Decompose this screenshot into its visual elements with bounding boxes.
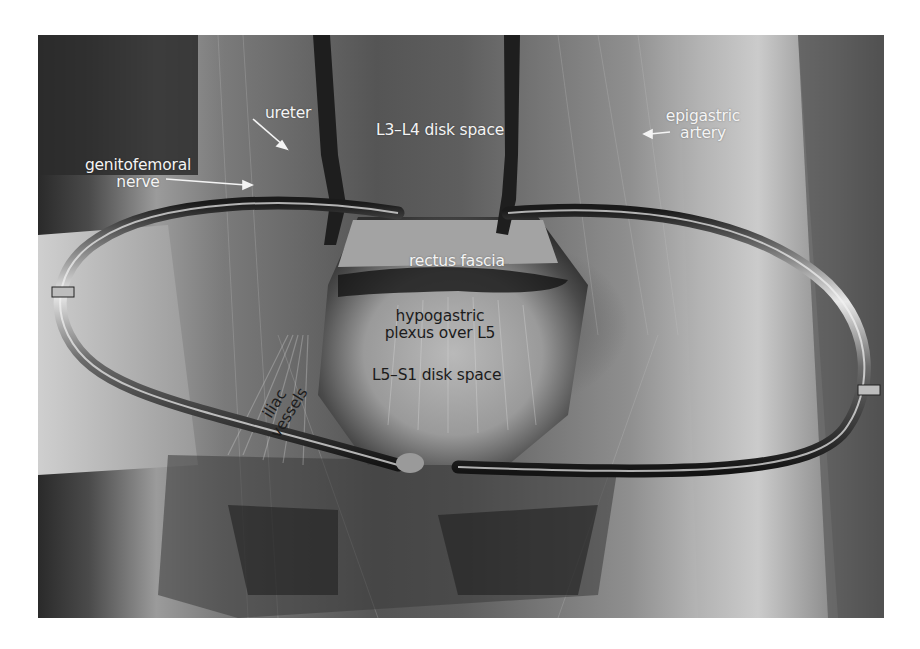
label-ureter: ureter — [265, 105, 311, 122]
left-surgical-towel — [38, 225, 198, 475]
left-frame-joint — [52, 287, 74, 297]
label-epigastric-line1: epigastric — [658, 108, 748, 125]
ureter-arrowhead — [277, 141, 287, 149]
label-genitofemoral-line1: genitofemoral — [78, 157, 198, 174]
label-hypogastric-line1: hypogastric — [378, 308, 502, 325]
label-l5-s1-disk-space: L5–S1 disk space — [372, 367, 501, 384]
bottom-blade-tip — [396, 453, 424, 473]
left-retractor-blade — [313, 35, 346, 245]
epigastric-arrowhead — [644, 130, 652, 138]
label-epigastric-line2: artery — [658, 125, 748, 142]
label-hypogastric-line2: plexus over L5 — [378, 325, 502, 342]
dark-corner-shade — [38, 35, 198, 175]
label-genitofemoral-line2: nerve — [78, 174, 198, 191]
label-rectus-fascia: rectus fascia — [409, 253, 505, 270]
label-epigastric-artery: epigastric artery — [658, 108, 748, 142]
lower-dark-fold-right — [438, 505, 598, 595]
label-l3-l4-disk-space: L3–L4 disk space — [376, 122, 504, 139]
label-hypogastric-plexus: hypogastric plexus over L5 — [378, 308, 502, 342]
label-genitofemoral-nerve: genitofemoral nerve — [78, 157, 198, 191]
right-frame-joint — [858, 385, 880, 395]
genitofemoral-arrowhead — [243, 181, 252, 189]
ureter-arrow — [253, 119, 283, 145]
